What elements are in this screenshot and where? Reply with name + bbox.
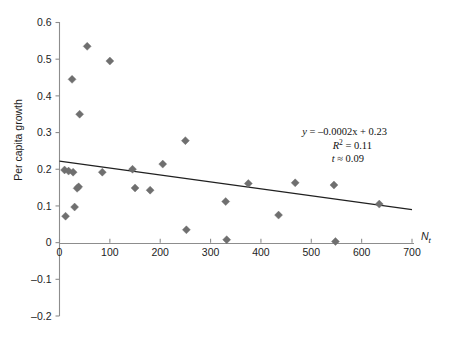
y-tick-label: 0.6 — [37, 16, 52, 28]
t-statistic-text: t ≈ 0.09 — [332, 153, 364, 164]
data-point — [98, 168, 106, 176]
data-point — [131, 184, 139, 192]
data-point — [106, 57, 114, 65]
y-tick-label: 0.5 — [37, 53, 52, 65]
data-point — [159, 160, 167, 168]
y-tick-label: 0 — [46, 236, 52, 248]
y-tick-label: –0.2 — [31, 310, 52, 322]
regression-line — [60, 161, 413, 209]
data-point — [182, 226, 190, 234]
x-axis-title: Nt — [421, 230, 432, 245]
x-tick-labels: 0100200300400500600700 — [57, 246, 421, 258]
data-point — [68, 75, 76, 83]
t-value: ≈ 0.09 — [335, 153, 364, 164]
data-point — [223, 236, 231, 244]
y-tick-label: 0.1 — [37, 200, 52, 212]
x-tick-label: 700 — [403, 246, 421, 258]
data-point — [71, 203, 79, 211]
x-tick-marks — [60, 239, 413, 243]
x-tick-label: 200 — [151, 246, 169, 258]
y-tick-label: –0.1 — [31, 273, 52, 285]
x-tick-label: 100 — [101, 246, 119, 258]
x-tick-label: 300 — [202, 246, 220, 258]
data-point — [331, 238, 339, 246]
data-point — [291, 179, 299, 187]
data-point — [146, 186, 154, 194]
scatter-plot: –0.2–0.100.10.20.30.40.50.6 Per capita g… — [0, 0, 458, 339]
regression-annotation: y = –0.0002x + 0.23 R2 = 0.11 t ≈ 0.09 — [301, 126, 387, 164]
data-point — [222, 198, 230, 206]
equation-rest: = –0.0002x + 0.23 — [307, 126, 387, 137]
y-axis-title: Per capita growth — [12, 99, 24, 181]
y-tick-label: 0.3 — [37, 126, 52, 138]
data-point — [275, 211, 283, 219]
chart-figure: –0.2–0.100.10.20.30.40.50.6 Per capita g… — [0, 0, 458, 339]
data-point — [375, 200, 383, 208]
data-point — [83, 42, 91, 50]
data-point — [76, 110, 84, 118]
r-squared-text: R2 = 0.11 — [332, 138, 372, 151]
x-tick-label: 0 — [57, 246, 63, 258]
y-tick-marks — [56, 23, 60, 317]
x-tick-label: 500 — [303, 246, 321, 258]
trend-line-group — [60, 161, 413, 209]
x-tick-label: 600 — [353, 246, 371, 258]
y-tick-label: 0.2 — [37, 163, 52, 175]
y-tick-label: 0.4 — [37, 90, 52, 102]
x-axis: 0100200300400500600700 Nt — [57, 230, 432, 258]
data-point — [330, 181, 338, 189]
data-point — [62, 212, 70, 220]
x-tick-label: 400 — [252, 246, 270, 258]
x-axis-title-sub: t — [429, 236, 432, 245]
data-point — [181, 137, 189, 145]
y-axis: –0.2–0.100.10.20.30.40.50.6 Per capita g… — [12, 16, 60, 322]
r-squared-value: = 0.11 — [343, 140, 372, 151]
y-tick-labels: –0.2–0.100.10.20.30.40.50.6 — [31, 16, 52, 322]
equation-text: y = –0.0002x + 0.23 — [301, 126, 387, 137]
